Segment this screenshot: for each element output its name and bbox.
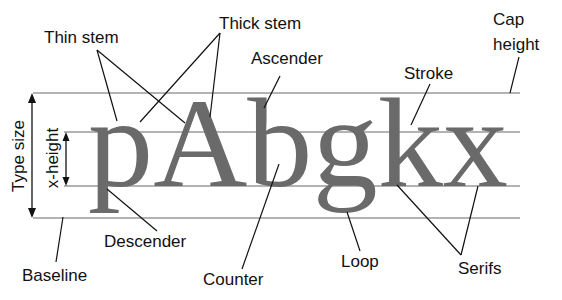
serifs-label: Serifs (458, 259, 501, 278)
type-anatomy-diagram: pAbgkx Type size x-height (0, 0, 562, 300)
diagram-canvas: pAbgkx Type size x-height (0, 0, 562, 300)
counter-label: Counter (203, 270, 264, 289)
cap-height-label-line1: Cap (493, 10, 524, 29)
type-size-arrow (28, 93, 36, 218)
cap-height-label-line2: height (493, 35, 540, 54)
stroke-label: Stroke (404, 64, 453, 83)
ascender-label: Ascender (251, 49, 323, 68)
baseline-label: Baseline (22, 266, 87, 285)
x-height-arrow (63, 132, 70, 186)
thick-stem-label: Thick stem (219, 14, 301, 33)
specimen-glyphs: pAbgkx (88, 72, 508, 214)
thin-stem-label: Thin stem (44, 28, 119, 47)
x-height-label: x-height (43, 127, 62, 188)
loop-label: Loop (341, 252, 379, 271)
descender-label: Descender (104, 232, 187, 251)
type-size-label: Type size (9, 120, 28, 192)
